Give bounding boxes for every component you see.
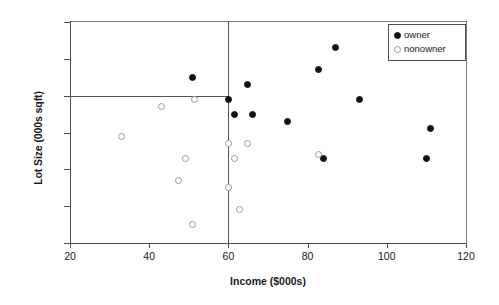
y-axis-title: Lot Size (000s sqft)	[32, 43, 44, 233]
open-circle-icon	[394, 46, 401, 53]
y-tick-15	[64, 206, 70, 207]
y-tick-19	[64, 133, 70, 134]
data-point-owner-9	[356, 96, 363, 103]
plot-frame-right	[466, 21, 467, 244]
data-point-nonowner-6	[225, 140, 232, 147]
x-tick-40	[149, 243, 150, 248]
reference-line-income-60	[228, 21, 229, 244]
data-point-owner-7	[332, 44, 339, 51]
data-point-nonowner-3	[175, 177, 182, 184]
x-axis-line	[70, 243, 467, 244]
legend-entry-owner: owner	[394, 28, 461, 42]
data-point-nonowner-8	[236, 206, 243, 213]
data-point-nonowner-5	[189, 221, 196, 228]
plot-frame-top	[70, 21, 467, 22]
x-tick-label-60: 60	[208, 251, 248, 262]
x-tick-label-40: 40	[129, 251, 169, 262]
data-point-nonowner-7	[225, 184, 232, 191]
y-tick-23	[64, 59, 70, 60]
legend-label-owner: owner	[404, 30, 430, 40]
x-axis-title: Income ($000s)	[70, 275, 466, 287]
data-point-owner-10	[427, 125, 434, 132]
data-point-owner-1	[225, 96, 232, 103]
legend-entry-nonowner: nonowner	[394, 42, 461, 56]
x-tick-label-80: 80	[288, 251, 328, 262]
scatter-plot-chart: Lot Size (000s sqft) 13151719212325 2040…	[0, 0, 499, 305]
data-point-nonowner-9	[244, 140, 251, 147]
data-point-owner-5	[284, 118, 291, 125]
x-tick-20	[70, 243, 71, 248]
data-point-nonowner-1	[158, 103, 165, 110]
x-tick-label-100: 100	[367, 251, 407, 262]
data-point-nonowner-4	[182, 155, 189, 162]
data-point-owner-3	[231, 111, 238, 118]
data-point-owner-6	[315, 66, 322, 73]
data-point-owner-4	[249, 111, 256, 118]
reference-line-lotsize-21	[70, 96, 228, 97]
x-tick-120	[466, 243, 467, 248]
y-tick-17	[64, 169, 70, 170]
chart-legend: owner nonowner	[388, 24, 466, 61]
y-tick-25	[64, 22, 70, 23]
x-tick-label-20: 20	[50, 251, 90, 262]
data-point-owner-0	[189, 74, 196, 81]
data-point-owner-11	[423, 155, 430, 162]
filled-circle-icon	[394, 32, 401, 39]
x-tick-100	[387, 243, 388, 248]
legend-label-nonowner: nonowner	[404, 44, 446, 54]
x-tick-80	[308, 243, 309, 248]
y-axis-line	[70, 21, 71, 244]
data-point-nonowner-2	[191, 96, 198, 103]
x-tick-label-120: 120	[446, 251, 486, 262]
data-point-nonowner-0	[118, 133, 125, 140]
data-point-owner-2	[244, 81, 251, 88]
data-point-nonowner-10	[231, 155, 238, 162]
